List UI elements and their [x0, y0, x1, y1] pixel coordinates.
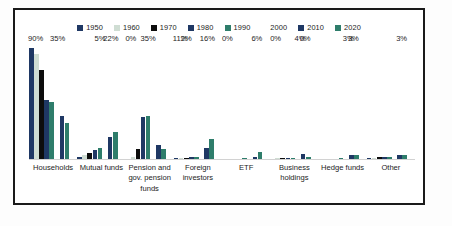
category-label-line: funds	[127, 184, 173, 194]
bar-2010[interactable]: 4%	[301, 42, 306, 159]
bar-rect	[108, 137, 113, 159]
bar-1980[interactable]	[286, 42, 291, 159]
bar-1960[interactable]	[34, 42, 39, 159]
bar-2000[interactable]	[151, 42, 156, 159]
bar-2000[interactable]	[247, 42, 252, 159]
bar-1950[interactable]: 90%	[29, 42, 34, 159]
bar-1980[interactable]	[237, 42, 242, 159]
bar-1990[interactable]	[291, 42, 296, 159]
bar-2000[interactable]	[344, 42, 349, 159]
bar-1950[interactable]: 0%	[270, 42, 275, 159]
bar-2000[interactable]	[54, 42, 59, 159]
bar-1960[interactable]	[372, 42, 377, 159]
legend-item-2020[interactable]: 2020	[335, 24, 361, 31]
bar-1960[interactable]	[275, 42, 280, 159]
bar-1950[interactable]	[367, 42, 372, 159]
legend-item-1960[interactable]: 1960	[114, 24, 140, 31]
legend-item-1970[interactable]: 1970	[151, 24, 177, 31]
legend-item-1980[interactable]: 1980	[188, 24, 214, 31]
legend-item-2010[interactable]: 2010	[298, 24, 324, 31]
category-label-line: Households	[30, 163, 76, 173]
bar-1990[interactable]	[49, 42, 54, 159]
bar-rect	[136, 149, 141, 159]
bar-value-label: 0%	[300, 35, 311, 43]
bar-1990[interactable]: 5%	[98, 42, 103, 159]
category-label-foreign-investors: Foreigninvestors	[174, 163, 222, 194]
bar-value-label: 3%	[396, 35, 407, 43]
bar-rect	[93, 150, 98, 159]
legend-label: 2020	[344, 24, 361, 31]
bar-rect	[34, 54, 39, 159]
category-label-line: Business	[271, 163, 317, 173]
bar-2010[interactable]: 35%	[60, 42, 65, 159]
bar-group-hedge-funds: 3%3%	[319, 42, 367, 159]
category-label-line: Hedge funds	[320, 163, 366, 173]
bar-1970[interactable]	[329, 42, 334, 159]
bar-1970[interactable]: 2%	[184, 42, 189, 159]
legend-swatch-icon	[77, 25, 83, 31]
bar-1980[interactable]	[44, 42, 49, 159]
bar-rect	[204, 148, 209, 159]
bar-2010[interactable]	[108, 42, 113, 159]
bar-1960[interactable]	[324, 42, 329, 159]
bar-1970[interactable]	[377, 42, 382, 159]
bar-group-pension-and-gov-pension-funds: 0%35%	[126, 42, 174, 159]
legend-swatch-icon	[114, 25, 120, 31]
chart-frame: 19501960197019801990200020102020 90%35%5…	[13, 8, 425, 205]
legend-label: 2010	[307, 24, 324, 31]
bar-2000[interactable]	[392, 42, 397, 159]
bar-1990[interactable]	[339, 42, 344, 159]
bar-1960[interactable]	[179, 42, 184, 159]
bar-1970[interactable]	[39, 42, 44, 159]
category-label-etf: ETF	[222, 163, 270, 194]
category-label-other: Other	[367, 163, 415, 194]
bar-1990[interactable]: 35%	[146, 42, 151, 159]
bar-1950[interactable]: 0%	[222, 42, 227, 159]
chart-screenshot: 19501960197019801990200020102020 90%35%5…	[0, 0, 452, 226]
bar-1990[interactable]	[387, 42, 392, 159]
bar-2020[interactable]: 0%	[306, 42, 311, 159]
bar-1980[interactable]	[93, 42, 98, 159]
bar-1970[interactable]	[232, 42, 237, 159]
bar-2020[interactable]: 6%	[258, 42, 263, 159]
bar-1960[interactable]	[227, 42, 232, 159]
bar-1950[interactable]: 11%	[174, 42, 179, 159]
legend-item-1990[interactable]: 1990	[225, 24, 251, 31]
bar-1960[interactable]	[131, 42, 136, 159]
bar-1970[interactable]	[87, 42, 92, 159]
bar-1980[interactable]	[334, 42, 339, 159]
legend-item-2000[interactable]: 2000	[261, 24, 287, 31]
bar-2010[interactable]: 3%	[349, 42, 354, 159]
bar-2010[interactable]	[156, 42, 161, 159]
bar-2020[interactable]	[65, 42, 70, 159]
legend-swatch-icon	[335, 25, 341, 31]
bar-1950[interactable]	[77, 42, 82, 159]
bar-rect	[49, 102, 54, 159]
bar-1970[interactable]	[136, 42, 141, 159]
bar-1980[interactable]	[382, 42, 387, 159]
legend-item-1950[interactable]: 1950	[77, 24, 103, 31]
bar-1970[interactable]	[280, 42, 285, 159]
category-label-pension-and-gov-pension-funds: Pension andgov. pensionfunds	[126, 163, 174, 194]
bar-2020[interactable]: 22%	[113, 42, 118, 159]
bar-2000[interactable]	[296, 42, 301, 159]
bar-2000[interactable]	[103, 42, 108, 159]
bar-value-label: 6%	[251, 35, 262, 43]
bar-2020[interactable]: 3%	[354, 42, 359, 159]
bar-2020[interactable]: 3%	[402, 42, 407, 159]
bar-2000[interactable]	[199, 42, 204, 159]
bar-1980[interactable]	[189, 42, 194, 159]
bar-1950[interactable]: 0%	[126, 42, 131, 159]
bar-2010[interactable]	[397, 42, 402, 159]
bar-2020[interactable]: 16%	[209, 42, 214, 159]
bar-2010[interactable]	[204, 42, 209, 159]
category-label-line: Mutual funds	[78, 163, 124, 173]
bar-2010[interactable]	[253, 42, 258, 159]
bar-2020[interactable]	[161, 42, 166, 159]
bar-1990[interactable]	[242, 42, 247, 159]
bar-1950[interactable]	[319, 42, 324, 159]
bar-1960[interactable]	[82, 42, 87, 159]
bar-1980[interactable]	[141, 42, 146, 159]
legend-label: 1980	[197, 24, 214, 31]
bar-1990[interactable]	[194, 42, 199, 159]
